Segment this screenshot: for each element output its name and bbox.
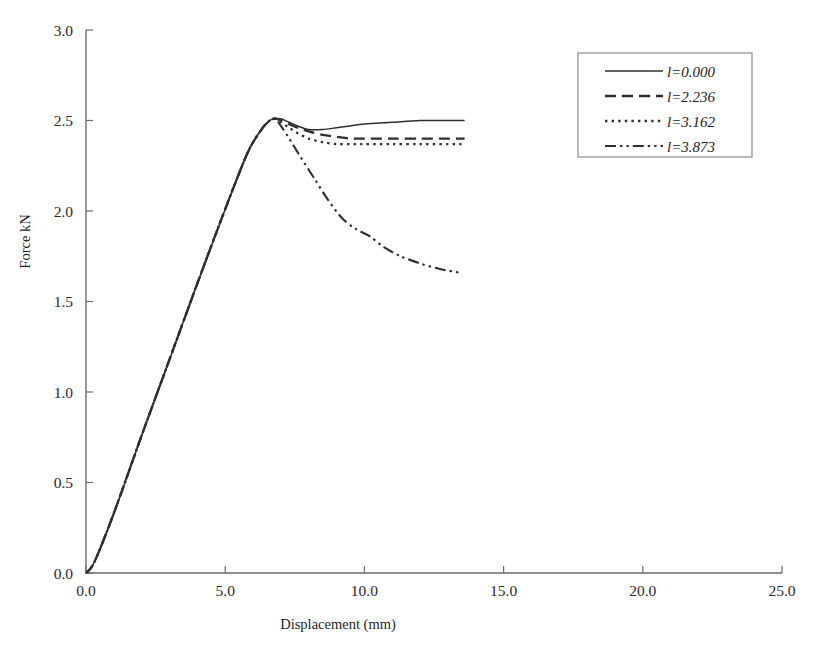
x-tick-label-5: 25.0 — [768, 582, 795, 599]
x-tick-label-1: 5.0 — [216, 582, 236, 599]
y-tick-label-3: 1.5 — [54, 293, 74, 310]
y-tick-label-4: 2.0 — [54, 203, 74, 220]
y-tick-label-1: 0.5 — [54, 474, 74, 491]
x-axis-title: Displacement (mm) — [280, 616, 396, 633]
y-tick-label-0: 0.0 — [54, 565, 74, 582]
y-tick-label-2: 1.0 — [54, 384, 74, 401]
legend-label-0: l=0.000 — [667, 64, 716, 80]
force-displacement-chart: 0.05.010.015.020.025.0 0.00.51.01.52.02.… — [0, 0, 816, 655]
y-axis-title: Force kN — [17, 214, 33, 269]
x-tick-label-4: 20.0 — [629, 582, 656, 599]
legend-label-3: l=3.873 — [667, 139, 715, 155]
y-tick-label-6: 3.0 — [54, 22, 74, 39]
legend-label-2: l=3.162 — [667, 114, 716, 130]
figure-container: 0.05.010.015.020.025.0 0.00.51.01.52.02.… — [0, 0, 816, 655]
y-tick-label-5: 2.5 — [54, 112, 74, 129]
x-tick-label-2: 10.0 — [351, 582, 378, 599]
x-tick-label-0: 0.0 — [76, 582, 96, 599]
x-tick-label-3: 15.0 — [490, 582, 517, 599]
legend-label-1: l=2.236 — [667, 89, 716, 105]
